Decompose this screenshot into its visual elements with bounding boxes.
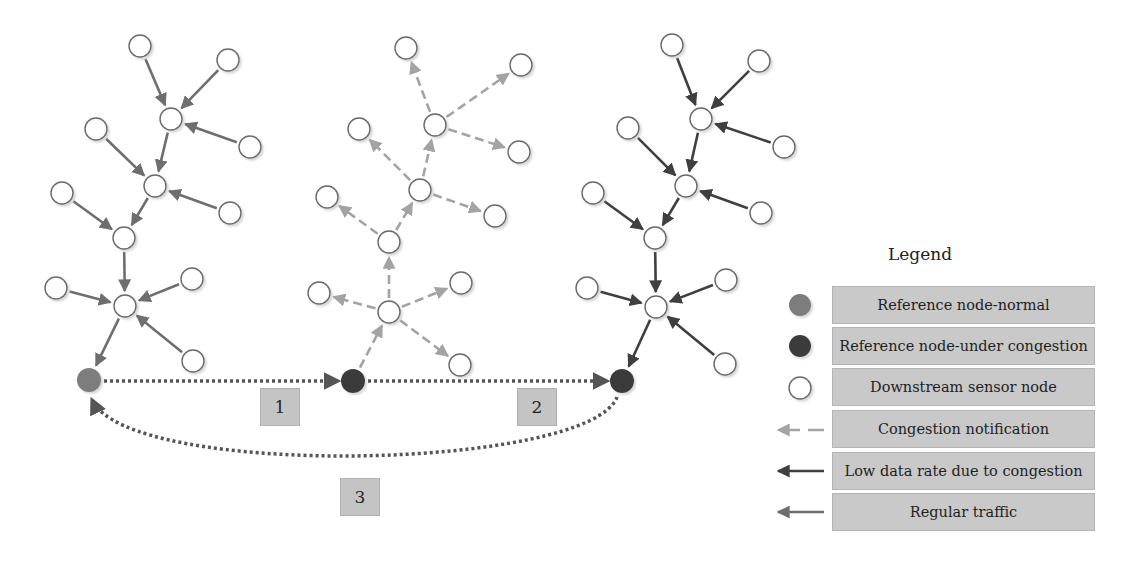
legend-row-sensor-node: Downstream sensor node	[832, 368, 1095, 406]
sensor-node	[449, 354, 471, 376]
sensor-node	[182, 350, 204, 372]
sensor-node	[508, 141, 530, 163]
edge-arrow	[700, 191, 748, 208]
edge-arrow	[158, 133, 167, 172]
sensor-node	[582, 182, 604, 204]
sensor-node	[217, 49, 239, 71]
edge-arrow	[139, 284, 179, 300]
edge-arrow	[333, 297, 375, 308]
sensor-node	[114, 295, 136, 317]
edge-arrow	[96, 319, 119, 366]
sensor-node	[484, 205, 506, 227]
reference-node-normal	[77, 368, 101, 392]
edge-arrow	[73, 201, 112, 229]
edge-arrow	[446, 74, 508, 117]
edge-arrow	[600, 292, 641, 303]
reference-node-congested-icon	[789, 335, 811, 357]
legend-row-regular-traffic: Regular traffic	[832, 493, 1095, 531]
sensor-node	[219, 202, 241, 224]
legend-title: Legend	[888, 244, 952, 264]
step-3-label: 3	[340, 478, 380, 516]
sensor-node	[715, 269, 737, 291]
edge-arrow	[712, 71, 749, 108]
edge-arrow	[370, 140, 410, 180]
edge-arrow	[185, 124, 237, 142]
edge-arrow	[604, 201, 643, 229]
sensor-node-icon	[789, 377, 811, 399]
sensor-node	[675, 175, 697, 197]
edge-arrow	[181, 70, 218, 108]
reference-node-normal-icon	[789, 294, 811, 316]
sensor-node	[181, 268, 203, 290]
legend-row-reference-congested: Reference node-under congestion	[832, 327, 1095, 365]
sensor-node	[644, 227, 666, 249]
edge-arrow	[396, 203, 412, 230]
sensor-node	[450, 272, 472, 294]
sensor-node	[348, 118, 370, 140]
edge-arrow	[663, 198, 679, 225]
sensor-node	[51, 182, 73, 204]
sensor-node	[239, 136, 261, 158]
sensor-node	[645, 296, 667, 318]
edge-arrow	[448, 129, 504, 147]
sensor-node	[378, 301, 400, 323]
edge-arrow	[655, 252, 656, 292]
edge-arrow	[145, 59, 165, 105]
edge-arrow	[411, 62, 430, 112]
edge-arrow	[670, 285, 713, 302]
edge-arrow	[677, 58, 695, 105]
sensor-node	[129, 35, 151, 57]
sensor-node	[144, 175, 166, 197]
edge-arrow	[106, 139, 144, 176]
edge-arrow	[668, 317, 715, 356]
sensor-node	[45, 277, 67, 299]
reference-node-congested	[610, 369, 634, 393]
edge-arrow	[339, 206, 378, 234]
step-1-label: 1	[260, 388, 300, 426]
edge-arrow	[132, 198, 148, 225]
tree-edges	[70, 58, 771, 368]
sensor-node	[576, 277, 598, 299]
edge-arrow	[124, 252, 125, 291]
edge-arrow	[423, 140, 431, 177]
sensor-node	[617, 117, 639, 139]
sensor-node	[316, 186, 338, 208]
sensor-node	[773, 136, 795, 158]
edge-arrow	[400, 320, 448, 356]
legend-row-congestion-notification: Congestion notification	[832, 410, 1095, 448]
sensor-node	[113, 227, 135, 249]
sensor-node	[85, 118, 107, 140]
edge-arrow	[629, 320, 650, 367]
sensor-node	[750, 202, 772, 224]
sensor-node	[308, 282, 330, 304]
sensor-node	[395, 37, 417, 59]
sensor-node	[510, 54, 532, 76]
edge-arrow	[169, 191, 217, 208]
sensor-node	[424, 114, 446, 136]
edge-arrow	[689, 133, 698, 172]
edge-arrow	[360, 325, 382, 367]
sensor-node	[661, 34, 683, 56]
edge-arrow	[402, 289, 447, 307]
step-2-label: 2	[517, 388, 557, 426]
legend-row-low-data-rate: Low data rate due to congestion	[832, 452, 1095, 490]
sensor-node	[409, 179, 431, 201]
sensor-node	[378, 231, 400, 253]
sensor-node	[748, 50, 770, 72]
sensor-node	[160, 108, 182, 130]
edge-arrow	[137, 315, 182, 352]
legend-icons	[778, 294, 824, 512]
legend-row-reference-normal: Reference node-normal	[832, 286, 1095, 324]
edge-arrow	[638, 138, 675, 175]
reference-node-congested	[341, 369, 365, 393]
edge-arrow	[715, 124, 771, 143]
edge-arrow	[70, 292, 111, 303]
edge-arrow	[433, 195, 481, 212]
sensor-node	[690, 108, 712, 130]
sensor-node	[714, 353, 736, 375]
